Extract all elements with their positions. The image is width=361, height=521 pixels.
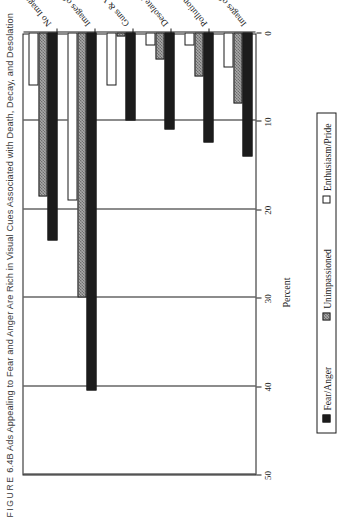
- bar: [184, 32, 194, 45]
- legend-label: Enthusiasm/Pride: [321, 123, 332, 191]
- solid-black-swatch-icon: [322, 414, 330, 422]
- axis-tick-label: 10: [262, 117, 272, 126]
- axis-tick: [256, 209, 261, 210]
- legend-label: Unimpassioned: [321, 249, 332, 309]
- figure-title: FIGURE 6.4B Ads Appealing to Fear and An…: [4, 5, 14, 517]
- axis-tick: [256, 120, 261, 121]
- figure-number: 6.4B: [4, 453, 14, 473]
- value-axis: [256, 33, 262, 475]
- bar: [47, 32, 57, 240]
- category-tick: [94, 28, 95, 33]
- bar-group: [179, 34, 218, 474]
- bar: [38, 32, 48, 196]
- axis-tick-label: 20: [262, 205, 272, 214]
- bar: [116, 32, 126, 36]
- category-label: Images of War: [205, 0, 247, 28]
- bar: [106, 32, 116, 85]
- axis-tick: [256, 474, 261, 475]
- bar: [125, 32, 135, 120]
- category-label: Pollution: [179, 0, 208, 28]
- chart-legend: Fear/Anger Unimpassioned Enthusiasm/Prid…: [316, 112, 336, 433]
- axis-tick: [256, 297, 261, 298]
- value-axis-title: Percent: [280, 277, 291, 307]
- plot-area: [22, 33, 256, 475]
- category-tick: [208, 28, 209, 33]
- axis-tick: [256, 32, 261, 33]
- bar-group: [218, 34, 257, 474]
- bar: [203, 32, 213, 143]
- bar: [155, 32, 165, 59]
- bar: [86, 32, 96, 390]
- bar: [145, 32, 155, 45]
- bar-group: [23, 34, 62, 474]
- white-outline-swatch-icon: [322, 195, 330, 203]
- category-tick: [56, 28, 57, 33]
- axis-tick: [256, 386, 261, 387]
- category-tick: [132, 28, 133, 33]
- figure-title-text: Ads Appealing to Fear and Anger Are Rich…: [4, 12, 14, 450]
- bar-group: [140, 34, 179, 474]
- bar: [233, 32, 243, 103]
- axis-tick-label: 50: [262, 471, 272, 480]
- legend-item-fear-anger: Fear/Anger: [321, 366, 332, 422]
- axis-tick-label: 0: [262, 31, 272, 36]
- bar-group: [62, 34, 101, 474]
- gray-hatch-swatch-icon: [322, 312, 330, 320]
- legend-item-unimpassioned: Unimpassioned: [321, 249, 332, 321]
- bar: [223, 32, 233, 67]
- bar: [194, 32, 204, 76]
- axis-tick-label: 30: [262, 294, 272, 303]
- bar: [28, 32, 38, 85]
- bar: [164, 32, 174, 129]
- bar: [242, 32, 252, 156]
- bar: [67, 32, 77, 200]
- axis-tick-label: 40: [262, 382, 272, 391]
- legend-label: Fear/Anger: [321, 366, 332, 410]
- bar-group: [101, 34, 140, 474]
- rotated-figure-page: FIGURE 6.4B Ads Appealing to Fear and An…: [0, 0, 361, 521]
- legend-item-enthusiasm-pride: Enthusiasm/Pride: [321, 123, 332, 203]
- category-tick: [170, 28, 171, 33]
- bar: [77, 32, 87, 297]
- gridline: [23, 31, 255, 32]
- figure-label-prefix: FIGURE: [4, 475, 14, 517]
